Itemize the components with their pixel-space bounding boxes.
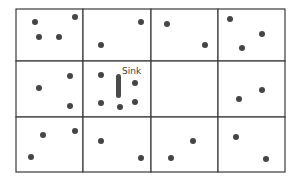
sensor-grid-diagram: Sink [0, 0, 297, 183]
sensor-node [138, 19, 144, 25]
sensor-node [98, 100, 104, 106]
grid-cell-r2-c3 [151, 61, 218, 117]
grid-cell-r1-c3 [151, 9, 218, 61]
sensor-node [233, 134, 239, 140]
grid-cell-r1-c2 [83, 9, 151, 61]
sensor-node [263, 156, 269, 162]
sensor-node [259, 87, 265, 93]
sensor-node [98, 72, 104, 78]
grid-cell-r3-c2 [83, 117, 151, 172]
sensor-node [190, 138, 196, 144]
sensor-node [40, 132, 46, 138]
grid-cell-r2-c1 [16, 61, 83, 117]
sensor-node [138, 155, 144, 161]
grid-cell-r3-c3 [151, 117, 218, 172]
sensor-node [227, 16, 233, 22]
sink-node [116, 74, 121, 98]
sensor-node [132, 99, 138, 105]
grid-cell-r3-c1 [16, 117, 83, 172]
sensor-node [56, 34, 62, 40]
sensor-node [132, 80, 138, 86]
sensor-node [168, 155, 174, 161]
sink-label: Sink [122, 66, 142, 76]
sensor-node [202, 42, 208, 48]
sensor-node [117, 104, 123, 110]
sensor-node [32, 19, 38, 25]
grid-cell-r3-c4 [218, 117, 285, 172]
sensor-node [36, 85, 42, 91]
sensor-node [28, 154, 34, 160]
sensor-node [72, 14, 78, 20]
grid-cell-r2-c4 [218, 61, 285, 117]
sensor-node [36, 34, 42, 40]
sensor-node [98, 138, 104, 144]
sensor-node [67, 73, 73, 79]
sensor-node [236, 96, 242, 102]
grid-cells [16, 9, 285, 172]
sensor-node [72, 128, 78, 134]
sensor-node [164, 21, 170, 27]
sensor-node [67, 103, 73, 109]
sensor-node [259, 31, 265, 37]
sensor-node [239, 45, 245, 51]
sensor-node [98, 42, 104, 48]
